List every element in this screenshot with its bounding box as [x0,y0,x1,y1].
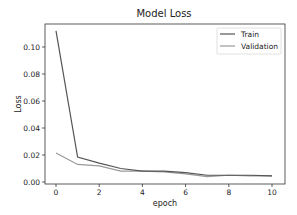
y-axis-ticks: 0.000.020.040.060.080.10 [23,43,45,187]
x-axis-ticks: 0246810 [54,184,277,197]
x-tick-label: 10 [267,188,277,197]
y-tick-label: 0.02 [23,151,40,160]
y-axis-label: Loss [14,95,23,113]
legend-label-train: Train [240,30,259,39]
legend-label-validation: Validation [241,42,278,51]
x-tick-label: 0 [54,188,59,197]
x-tick-label: 4 [140,188,145,197]
x-tick-label: 6 [183,188,188,197]
legend: Train Validation [217,28,281,54]
y-tick-label: 0.00 [23,178,40,187]
x-tick-label: 2 [97,188,102,197]
loss-line-chart: Model Loss 0.000.020.040.060.080.10 0246… [0,0,297,215]
chart-title: Model Loss [136,8,191,19]
y-tick-label: 0.06 [23,97,40,106]
y-tick-label: 0.04 [23,124,40,133]
series-line-validation [56,153,272,177]
x-axis-label: epoch [153,199,177,208]
y-tick-label: 0.10 [23,43,40,52]
y-tick-label: 0.08 [23,70,40,79]
x-tick-label: 8 [226,188,231,197]
